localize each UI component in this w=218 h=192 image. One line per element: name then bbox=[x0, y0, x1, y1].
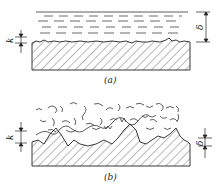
smooth-wall bbox=[32, 38, 190, 70]
label-delta-b: δ bbox=[195, 141, 205, 146]
roughness-height-marker-b bbox=[15, 122, 27, 152]
label-k-a: k bbox=[5, 38, 15, 43]
boundary-layer-diagram: k δ (a) bbox=[0, 0, 218, 192]
roughness-height-marker-a bbox=[15, 30, 27, 53]
panel-a: k δ (a) bbox=[5, 12, 210, 85]
rough-wall bbox=[32, 124, 190, 166]
laminar-flow-lines bbox=[38, 16, 182, 33]
caption-a: (a) bbox=[104, 75, 117, 85]
label-k-b: k bbox=[5, 135, 15, 140]
label-delta-a: δ bbox=[195, 25, 205, 30]
caption-b: (b) bbox=[104, 172, 117, 182]
panel-b: k δ (b) bbox=[5, 103, 212, 183]
